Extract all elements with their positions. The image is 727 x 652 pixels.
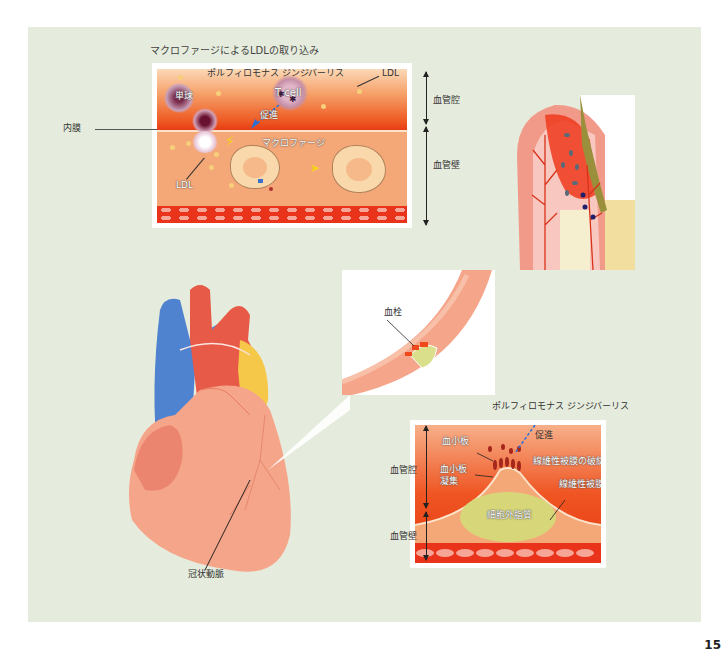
ldl-particle <box>216 91 221 96</box>
platelet-label: 血小板 <box>442 437 469 446</box>
transmigrating-monocyte-lower <box>192 131 218 153</box>
ldl-particle <box>357 89 362 94</box>
ldl-label-bottom: LDL <box>176 181 193 190</box>
wall-label-bottom: 血管壁 <box>390 532 417 541</box>
ldl-particle <box>321 104 326 109</box>
plaque-wall-arrow <box>426 512 427 560</box>
receptor-icon <box>269 187 273 191</box>
plaque-lumen-arrow <box>426 426 427 508</box>
t-cell-label: T cell <box>275 88 302 98</box>
plaque-rupture-diagram: 促進 血小板 血小板 凝集 線維性被膜の破綻 線維性被膜 細胞外脂質 <box>410 420 606 568</box>
top-panel-title: マクロファージによるLDLの取り込み <box>150 42 319 57</box>
thrombus-label: 血栓 <box>384 308 402 317</box>
ldl-particle <box>170 145 175 150</box>
macrophage-label: マクロファージ <box>262 139 325 148</box>
periodontal-tissue-illustration <box>505 95 685 270</box>
ldl-particle <box>214 152 219 157</box>
artery-segment <box>342 270 495 395</box>
fibrous-cap-rupture-label: 線維性被膜の破綻 <box>533 457 601 466</box>
macrophage-cell <box>332 145 386 193</box>
monocyte-label: 単球 <box>175 92 193 101</box>
wall-dimension-arrow <box>426 127 427 225</box>
smooth-muscle-layer <box>157 206 407 223</box>
intima-leader-line <box>95 129 157 130</box>
ldl-particle <box>229 183 234 188</box>
platelet-aggregation-label-2: 凝集 <box>440 477 458 486</box>
vessel-thrombus-diagram: 血栓 <box>342 270 495 395</box>
intima-label: 内膜 <box>63 124 81 133</box>
promote-label: 促進 <box>260 111 278 120</box>
lumen-label-bottom: 血管腔 <box>390 466 417 475</box>
lumen-label-top: 血管腔 <box>433 96 460 105</box>
ldl-particle <box>178 75 183 80</box>
promote-label-bottom: 促進 <box>535 431 553 440</box>
right-arrow-icon: ➤ <box>310 161 320 175</box>
lumen-dimension-arrow <box>426 72 427 124</box>
extracellular-lipid-label: 細胞外脂質 <box>487 511 532 520</box>
bacteria-label: ポルフィロモナス ジンジバーリス <box>207 69 344 78</box>
ldl-uptake-diagram: ✱ ✱ ⚡ ➤ ポルフィロモナス ジンジバーリス LDL 単球 T cell 促… <box>152 63 412 228</box>
macrophage-cell <box>230 145 280 189</box>
page-number: 15 <box>704 638 721 652</box>
bacteria-label-bottom: ポルフィロモナス ジンジバーリス <box>492 402 629 411</box>
fibrous-cap-label: 線維性被膜 <box>559 480 601 489</box>
ldl-particle <box>186 141 191 146</box>
platelet-aggregation-label-1: 血小板 <box>440 465 467 474</box>
lightning-icon: ⚡ <box>225 133 235 149</box>
ldl-particle <box>209 165 214 170</box>
receptor-icon <box>258 179 263 183</box>
wall-label-top: 血管壁 <box>433 161 460 170</box>
coronary-artery-label: 冠状動脈 <box>188 570 224 579</box>
ldl-label-top: LDL <box>382 69 399 78</box>
